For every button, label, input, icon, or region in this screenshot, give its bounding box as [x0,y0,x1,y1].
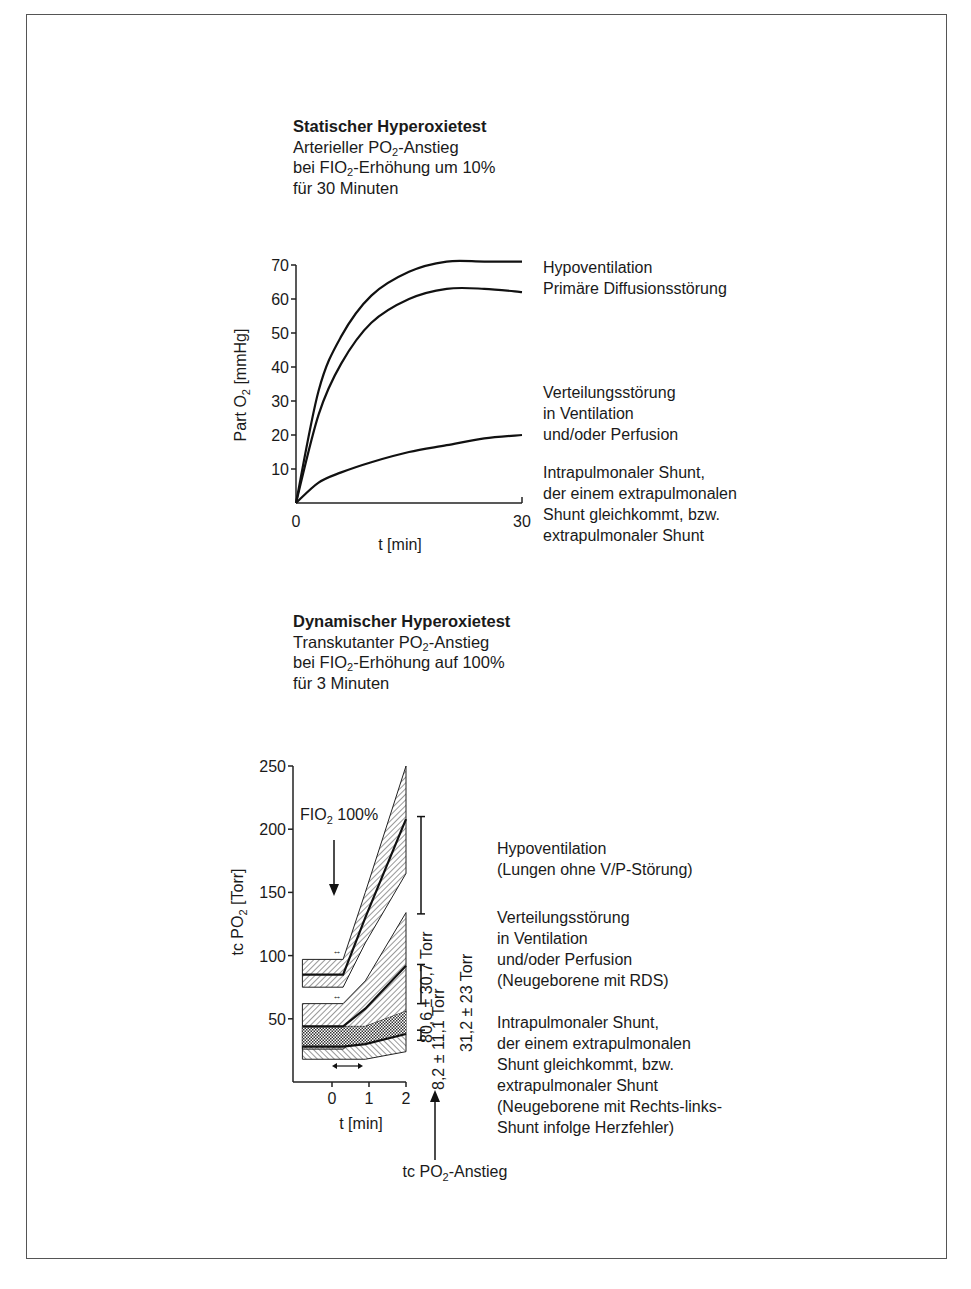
x-tick-label: 1 [365,1090,374,1107]
fio2-annotation: FIO2 100% [300,806,378,826]
y-tick-label: 150 [259,884,286,901]
y-tick-label: 50 [268,1011,286,1028]
double-arrow-icon: ↔ [333,946,342,956]
legend-text: (Lungen ohne V/P-Störung) [497,859,693,880]
legend-text: (Neugeborene mit RDS) [497,970,669,991]
legend-text: Shunt gleichkommt, bzw. [497,1054,722,1075]
dynamic-y-axis-label: tc PO2 [Torr] [229,868,249,955]
range-label-8: 8,2 ± 11,1 Torr [430,988,447,1090]
double-arrow-icon: ↔ [333,991,342,1001]
x-tick-label: 2 [402,1090,411,1107]
x-tick-label: 0 [328,1090,337,1107]
dynamic-chart: 50100150200250012 ↔↔ tc PO2 [Torr] t [mi… [0,0,971,1289]
legend-text: Intrapulmonaler Shunt, [497,1012,722,1033]
dynamic-x-axis-label: t [min] [339,1115,383,1132]
tcpo2-rise-label: tc PO2-Anstieg [403,1163,508,1183]
range-label-31: 31,2 ± 23 Torr [458,953,475,1052]
legend-text: Hypoventilation [497,838,693,859]
dynamic-legend-group-b: Verteilungsstörung in Ventilation und/od… [497,907,669,991]
legend-text: und/oder Perfusion [497,949,669,970]
y-tick-label: 250 [259,758,286,775]
y-tick-label: 200 [259,821,286,838]
legend-text: der einem extrapulmonalen [497,1033,722,1054]
legend-text: extrapulmonaler Shunt [497,1075,722,1096]
y-tick-label: 100 [259,948,286,965]
dynamic-legend-group-a: Hypoventilation (Lungen ohne V/P-Störung… [497,838,693,880]
legend-text: Shunt infolge Herzfehler) [497,1117,722,1138]
legend-text: Verteilungsstörung [497,907,669,928]
dynamic-legend-group-c: Intrapulmonaler Shunt, der einem extrapu… [497,1012,722,1138]
legend-text: in Ventilation [497,928,669,949]
legend-text: (Neugeborene mit Rechts-links- [497,1096,722,1117]
